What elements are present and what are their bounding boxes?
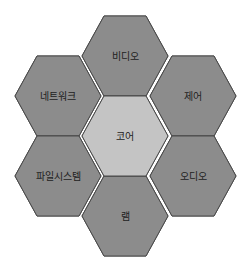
hex-label-core: 코어 (116, 131, 134, 142)
hexagon-diagram: 비디오 네트워크 제어 파일시스템 오디오 램 코어 (0, 0, 251, 271)
hex-label-control: 제어 (184, 91, 202, 102)
hex-label-ram: 램 (121, 211, 130, 222)
hex-label-video: 비디오 (112, 51, 139, 62)
hex-lower-right: 오디오 (150, 136, 236, 216)
hex-label-network: 네트워크 (40, 90, 76, 102)
hex-label-audio: 오디오 (180, 171, 207, 182)
hex-upper-right: 제어 (150, 56, 236, 136)
hex-label-filesystem: 파일시스템 (36, 171, 81, 182)
